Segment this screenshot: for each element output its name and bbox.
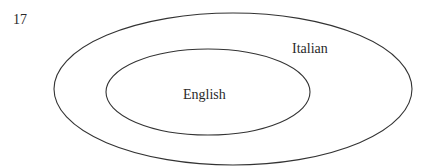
inner-set-label: English [183, 87, 226, 102]
outer-set-italian [54, 13, 412, 165]
euler-diagram: 17 Italian English [0, 0, 434, 168]
figure-number: 17 [13, 12, 27, 27]
outer-set-label: Italian [292, 41, 328, 56]
